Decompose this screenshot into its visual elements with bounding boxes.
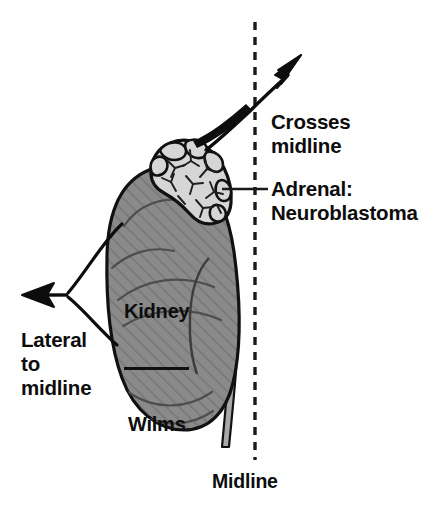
kidney-wilms-divider-rule xyxy=(124,367,189,370)
label-midline: Midline xyxy=(212,470,278,493)
label-lateral-to-midline: Lateral to midline xyxy=(21,328,91,399)
label-crosses-midline: Crosses midline xyxy=(271,110,351,158)
label-wilms: Wilms xyxy=(124,414,189,436)
label-adrenal-neuroblastoma: Adrenal: Neuroblastoma xyxy=(271,177,418,225)
kidney-adrenal-diagram: Crosses midline Adrenal: Neuroblastoma L… xyxy=(0,0,440,511)
diagram-canvas xyxy=(0,0,440,511)
label-kidney-wilms: Kidney Wilms xyxy=(124,258,189,479)
label-kidney: Kidney xyxy=(124,301,189,323)
